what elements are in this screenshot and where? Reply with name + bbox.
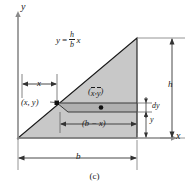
x-axis-label: x (176, 131, 180, 141)
boundary-equation-label: y = h b x (56, 31, 81, 49)
differential-strip (57, 103, 137, 112)
dim-x-arrow-right-icon (51, 82, 57, 87)
equation-numerator: h (69, 31, 75, 39)
dim-h-arrow-top-icon (170, 38, 175, 45)
equation-equals: = (62, 36, 68, 45)
figure-caption: (c) (0, 172, 189, 181)
equation-denominator: b (69, 41, 75, 49)
dim-dy-arrow-top-icon (144, 99, 148, 104)
dim-b-arrow-right-icon (131, 155, 138, 160)
curve-point-marker-icon (55, 101, 60, 106)
dimension-label-strip-width: (b − x) (82, 119, 106, 128)
equation-variable: x (77, 36, 81, 45)
y-axis-arrow-icon (15, 11, 20, 17)
dimension-label-x: x (37, 79, 41, 88)
dimension-label-dy: dy (152, 102, 160, 110)
equation-lhs: y (56, 36, 60, 45)
curve-point-leader (50, 102, 55, 103)
dim-y-arrow-bottom-icon (144, 133, 148, 139)
triangle-shape (18, 38, 137, 138)
dim-b-arrow-left-icon (18, 155, 25, 160)
centroid-paren-close: ) (101, 87, 104, 96)
dim-x-arrow-left-icon (22, 82, 28, 87)
figure-container: y x y = h b x x b h dy y (x, y) ( x , y … (0, 0, 189, 192)
curve-point-label: (x, y) (21, 98, 38, 107)
centroid-label: ( x , y ) (88, 87, 103, 97)
dim-y-arrow-top-icon (144, 112, 148, 117)
centroid-dot-icon (99, 105, 104, 110)
y-axis-label: y (21, 2, 25, 12)
dimension-label-strip-elevation: y (150, 116, 154, 124)
dimension-label-height: h (168, 80, 173, 89)
equation-fraction: h b (69, 31, 75, 49)
dimension-label-base: b (76, 152, 81, 161)
